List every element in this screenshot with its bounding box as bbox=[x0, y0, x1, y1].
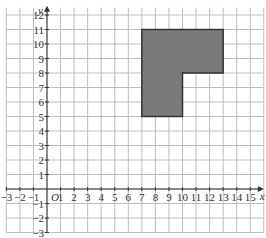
y-tick-label: 10 bbox=[33, 38, 45, 50]
x-tick-label: 2 bbox=[71, 191, 77, 203]
y-tick-label: 9 bbox=[39, 53, 45, 65]
x-tick-label: 15 bbox=[245, 191, 257, 203]
x-tick-label: 8 bbox=[153, 191, 159, 203]
y-tick-label: 2 bbox=[39, 154, 45, 166]
y-tick-label: −3 bbox=[32, 227, 44, 238]
x-tick-label: 4 bbox=[98, 191, 104, 203]
x-tick-label: 12 bbox=[204, 191, 215, 203]
y-tick-label: −2 bbox=[32, 212, 44, 224]
y-arrow-icon bbox=[44, 6, 50, 12]
l-shape bbox=[142, 30, 223, 117]
x-tick-label: 13 bbox=[218, 191, 230, 203]
x-tick-label: −2 bbox=[14, 191, 26, 203]
y-tick-label: 7 bbox=[39, 82, 45, 94]
origin-label: O bbox=[51, 191, 59, 203]
x-tick-label: 3 bbox=[85, 191, 91, 203]
y-tick-label: 1 bbox=[39, 169, 45, 181]
y-axis-label: y bbox=[37, 4, 43, 16]
y-tick-label: 4 bbox=[39, 125, 45, 137]
y-tick-label: −1 bbox=[32, 198, 44, 210]
x-tick-label: 5 bbox=[112, 191, 118, 203]
y-tick-label: 6 bbox=[39, 96, 45, 108]
x-tick-label: 14 bbox=[231, 191, 243, 203]
x-tick-label: 6 bbox=[126, 191, 132, 203]
y-tick-label: 5 bbox=[39, 111, 45, 123]
x-tick-label: 11 bbox=[191, 191, 202, 203]
x-tick-label: 10 bbox=[177, 191, 189, 203]
y-tick-label: 8 bbox=[39, 67, 45, 79]
y-tick-label: 3 bbox=[39, 140, 45, 152]
x-tick-label: 7 bbox=[139, 191, 145, 203]
coordinate-grid: −3−2−11234567891011121314151211109876543… bbox=[0, 0, 266, 237]
x-tick-label: −3 bbox=[0, 191, 12, 203]
x-axis-label: x bbox=[259, 190, 265, 202]
y-tick-label: 11 bbox=[33, 24, 44, 36]
x-tick-label: 9 bbox=[166, 191, 172, 203]
